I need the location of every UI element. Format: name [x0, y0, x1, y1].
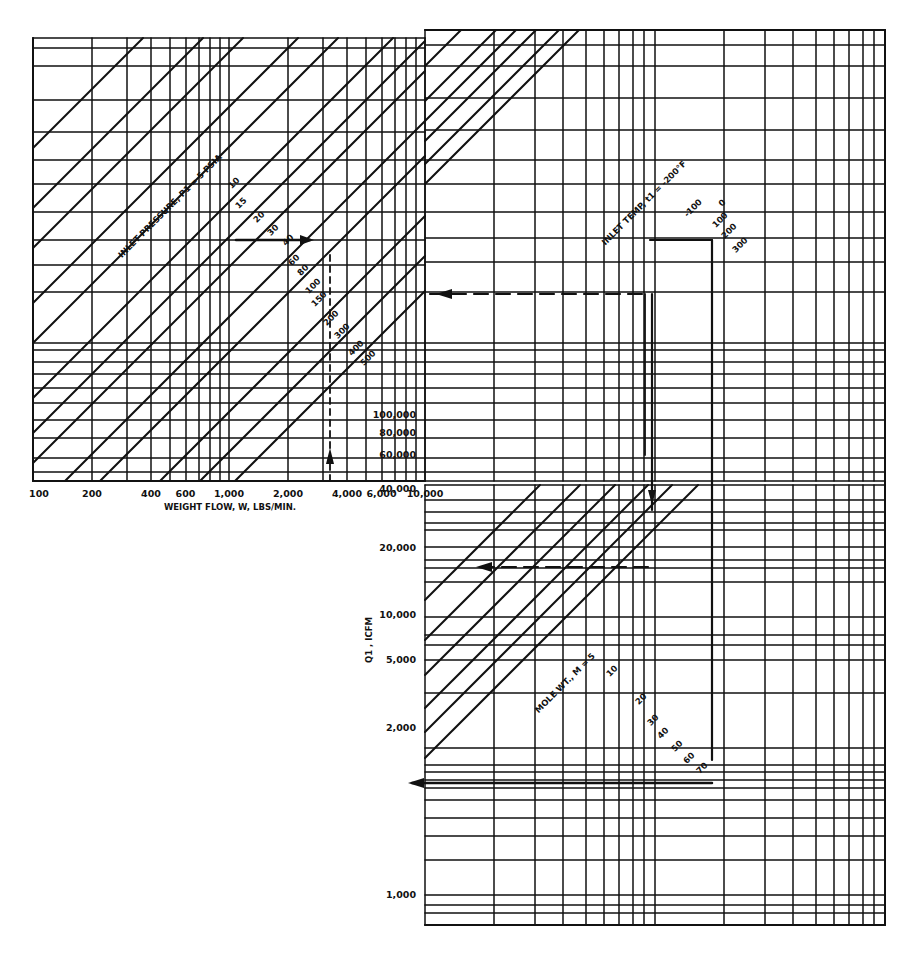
curve-line [425, 30, 579, 184]
curve-line [33, 38, 243, 248]
pressure-label: 200 [321, 308, 341, 328]
pressure-label: 40 [280, 232, 295, 247]
mole-label: 30 [645, 712, 660, 727]
x-tick-label: 400 [141, 488, 161, 499]
x-tick-label: 600 [176, 488, 196, 499]
temp-label: 0 [716, 197, 727, 208]
mole-label: 40 [655, 725, 670, 740]
y-tick-label: 40,000 [379, 483, 416, 494]
mole-label: 70 [694, 760, 709, 775]
mole-label: 60 [681, 750, 696, 765]
chart-canvas: 1002004006001,0002,0004,0006,00010,000WE… [0, 0, 923, 962]
curve-line [33, 38, 298, 303]
nomograph-chart: 1002004006001,0002,0004,0006,00010,000WE… [0, 0, 923, 962]
y-axis-title: Q1 , ICFM [364, 617, 374, 663]
y-tick-label: 60,000 [379, 449, 416, 460]
x-tick-label: 2,000 [273, 488, 303, 499]
pressure-label: 500 [358, 348, 378, 368]
x-tick-label: 200 [82, 488, 102, 499]
curve-line [65, 121, 425, 481]
pressure-label: 15 [233, 195, 248, 210]
temp-label: -100 [682, 197, 704, 219]
x-tick-label: 4,000 [332, 488, 362, 499]
y-tick-label: 5,000 [386, 654, 416, 665]
curve-line [33, 38, 393, 398]
pressure-label: 30 [265, 222, 280, 237]
mole-label: 50 [669, 738, 684, 753]
y-tick-label: 20,000 [379, 542, 416, 553]
pressure-label: 300 [332, 321, 352, 341]
y-tick-label: 100,000 [373, 409, 417, 420]
y-tick-label: 1,000 [386, 889, 416, 900]
curve-line [425, 30, 559, 164]
mole-label: 10 [604, 663, 619, 678]
x-tick-label: 100 [29, 488, 49, 499]
x-axis-title: WEIGHT FLOW, W, LBS/MIN. [164, 502, 296, 512]
y-tick-label: 2,000 [386, 722, 416, 733]
x-tick-label: 1,000 [214, 488, 244, 499]
curve-line [425, 30, 461, 66]
grid-lines [33, 30, 885, 925]
y-tick-label: 10,000 [379, 609, 416, 620]
y-tick-label: 80,000 [379, 427, 416, 438]
